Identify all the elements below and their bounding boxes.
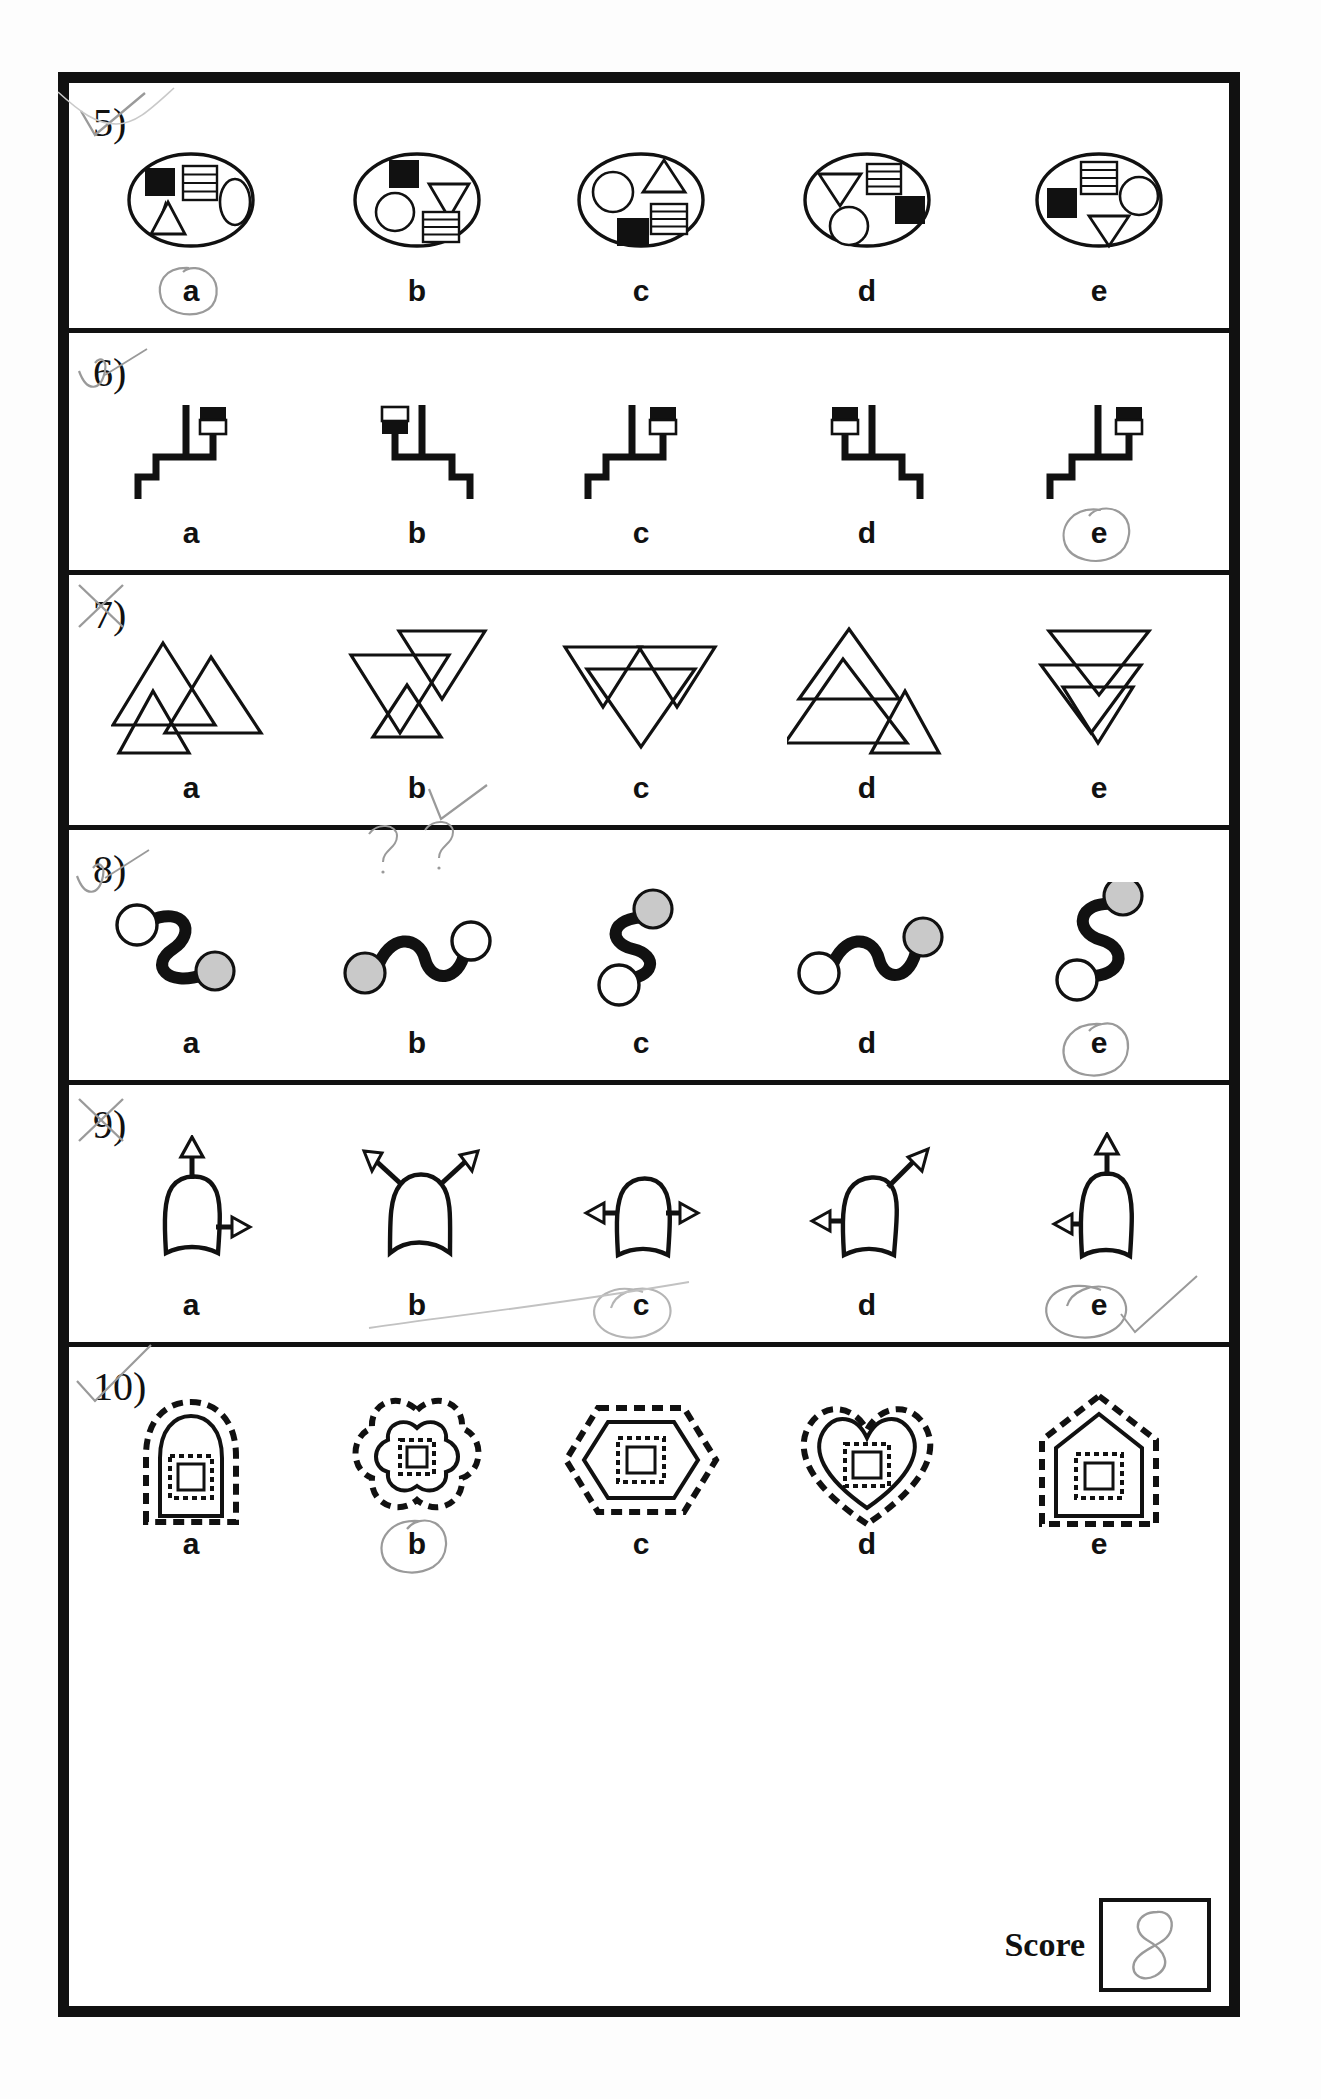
stimulus-8-d (767, 872, 967, 1022)
stimulus-9-a (91, 1127, 291, 1277)
stimulus-5-c (541, 125, 741, 275)
stimulus-10-d (767, 1389, 967, 1539)
option-8-d[interactable]: d (767, 830, 967, 1080)
option-label-5-c: c (541, 274, 741, 308)
option-8-c[interactable]: c (541, 830, 741, 1080)
option-label-6-e: e (999, 516, 1199, 550)
score-value-cell[interactable] (1099, 1898, 1211, 1992)
stimulus-6-c (541, 375, 741, 525)
option-label-9-b: b (317, 1288, 517, 1322)
option-label-7-b: b (317, 771, 517, 805)
option-label-9-e: e (999, 1288, 1199, 1322)
stimulus-7-d (767, 617, 967, 767)
option-label-10-a: a (91, 1527, 291, 1561)
options-row-6: a b (69, 333, 1229, 570)
stimulus-7-e (999, 617, 1199, 767)
option-label-9-d: d (767, 1288, 967, 1322)
option-label-5-a: a (91, 274, 291, 308)
option-label-6-b: b (317, 516, 517, 550)
test-frame: 5) (58, 72, 1240, 2017)
stimulus-10-c (541, 1389, 741, 1539)
option-label-8-d: d (767, 1026, 967, 1060)
stimulus-7-b (317, 617, 517, 767)
option-label-10-b: b (317, 1527, 517, 1561)
option-10-e[interactable]: e (999, 1347, 1199, 1647)
option-8-a[interactable]: a (91, 830, 291, 1080)
stimulus-7-c (541, 617, 741, 767)
stimulus-5-b (317, 125, 517, 275)
stimulus-10-b (317, 1389, 517, 1539)
option-label-6-d: d (767, 516, 967, 550)
stimulus-7-a (91, 617, 291, 767)
option-6-a[interactable]: a (91, 333, 291, 570)
stimulus-6-b (317, 375, 517, 525)
question-row-8: 8) a (69, 830, 1229, 1085)
options-row-8: a b (69, 830, 1229, 1080)
option-7-a[interactable]: a (91, 575, 291, 825)
handwritten-score-digit (1103, 1902, 1207, 1988)
option-label-7-e: e (999, 771, 1199, 805)
option-10-c[interactable]: c (541, 1347, 741, 1647)
stimulus-8-a (91, 872, 291, 1022)
option-9-b[interactable]: b (317, 1085, 517, 1342)
option-label-8-e: e (999, 1026, 1199, 1060)
option-label-7-c: c (541, 771, 741, 805)
option-9-a[interactable]: a (91, 1085, 291, 1342)
option-label-5-b: b (317, 274, 517, 308)
option-label-10-d: d (767, 1527, 967, 1561)
option-5-e[interactable]: e (999, 83, 1199, 328)
question-row-6: 6) a (69, 333, 1229, 575)
option-6-c[interactable]: c (541, 333, 741, 570)
option-7-d[interactable]: d (767, 575, 967, 825)
option-8-e[interactable]: e (999, 830, 1199, 1080)
option-label-7-a: a (91, 771, 291, 805)
option-5-d[interactable]: d (767, 83, 967, 328)
stimulus-6-a (91, 375, 291, 525)
option-label-6-c: c (541, 516, 741, 550)
stimulus-6-e (999, 375, 1199, 525)
stimulus-9-e (999, 1127, 1199, 1277)
stimulus-10-a (91, 1389, 291, 1539)
question-row-5: 5) (69, 83, 1229, 333)
option-label-8-b: b (317, 1026, 517, 1060)
stimulus-5-e (999, 125, 1199, 275)
options-row-5: a (69, 83, 1229, 328)
option-9-e[interactable]: e (999, 1085, 1199, 1342)
option-9-c[interactable]: c (541, 1085, 741, 1342)
option-label-7-d: d (767, 771, 967, 805)
option-10-b[interactable]: b (317, 1347, 517, 1647)
option-label-8-c: c (541, 1026, 741, 1060)
worksheet-page: 5) (0, 0, 1321, 2099)
option-label-10-e: e (999, 1527, 1199, 1561)
option-label-6-a: a (91, 516, 291, 550)
option-9-d[interactable]: d (767, 1085, 967, 1342)
option-10-a[interactable]: a (91, 1347, 291, 1647)
stimulus-8-e (999, 872, 1199, 1022)
option-label-5-e: e (999, 274, 1199, 308)
score-label: Score (1004, 1926, 1085, 1964)
option-label-9-a: a (91, 1288, 291, 1322)
stimulus-5-a (91, 125, 291, 275)
option-10-d[interactable]: d (767, 1347, 967, 1647)
stimulus-6-d (767, 375, 967, 525)
option-7-e[interactable]: e (999, 575, 1199, 825)
option-label-10-c: c (541, 1527, 741, 1561)
question-row-7: 7) a (69, 575, 1229, 830)
option-7-b[interactable]: b (317, 575, 517, 825)
option-5-a[interactable]: a (91, 83, 291, 328)
options-row-9: a b (69, 1085, 1229, 1342)
option-5-b[interactable]: b (317, 83, 517, 328)
option-5-c[interactable]: c (541, 83, 741, 328)
score-box: Score (1004, 1898, 1211, 1992)
option-7-c[interactable]: c (541, 575, 741, 825)
option-8-b[interactable]: b (317, 830, 517, 1080)
stimulus-5-d (767, 125, 967, 275)
question-row-9: 9) a (69, 1085, 1229, 1347)
stimulus-9-d (767, 1127, 967, 1277)
option-label-8-a: a (91, 1026, 291, 1060)
stimulus-10-e (999, 1389, 1199, 1539)
option-6-d[interactable]: d (767, 333, 967, 570)
option-6-b[interactable]: b (317, 333, 517, 570)
stimulus-8-b (317, 872, 517, 1022)
option-6-e[interactable]: e (999, 333, 1199, 570)
